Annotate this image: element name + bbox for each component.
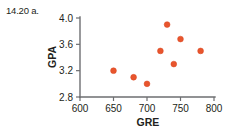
y-tick-label: 3.2 — [59, 65, 73, 76]
data-point — [144, 81, 150, 87]
y-axis-title: GPA — [46, 46, 58, 68]
x-tick-label: 600 — [72, 103, 89, 114]
data-point — [164, 22, 170, 28]
y-axis-tick-labels: 2.83.23.64.0 — [59, 13, 73, 103]
data-point-series — [111, 22, 204, 87]
x-axis-tick-labels: 600650700750800 — [72, 103, 223, 114]
x-tick-label: 650 — [105, 103, 122, 114]
data-point — [178, 36, 184, 42]
y-tick-label: 4.0 — [59, 13, 73, 24]
x-tick-label: 700 — [139, 103, 156, 114]
chart-canvas: 2.83.23.64.0 GPA 600650700750800 GRE — [0, 0, 225, 132]
y-axis-group: 2.83.23.64.0 GPA — [46, 13, 80, 103]
y-tick-label: 2.8 — [59, 92, 73, 103]
data-point — [198, 48, 204, 54]
x-axis-group: 600650700750800 GRE — [72, 97, 223, 128]
x-tick-label: 750 — [172, 103, 189, 114]
data-point — [171, 61, 177, 67]
data-point — [158, 48, 164, 54]
data-point — [131, 74, 137, 80]
x-axis-title: GRE — [137, 116, 160, 128]
scatter-plot-figure: 14.20 a. 2.83.23.64.0 GPA 60065070075080… — [0, 0, 225, 132]
x-tick-label: 800 — [206, 103, 223, 114]
data-point — [111, 68, 117, 74]
y-tick-label: 3.6 — [59, 39, 73, 50]
